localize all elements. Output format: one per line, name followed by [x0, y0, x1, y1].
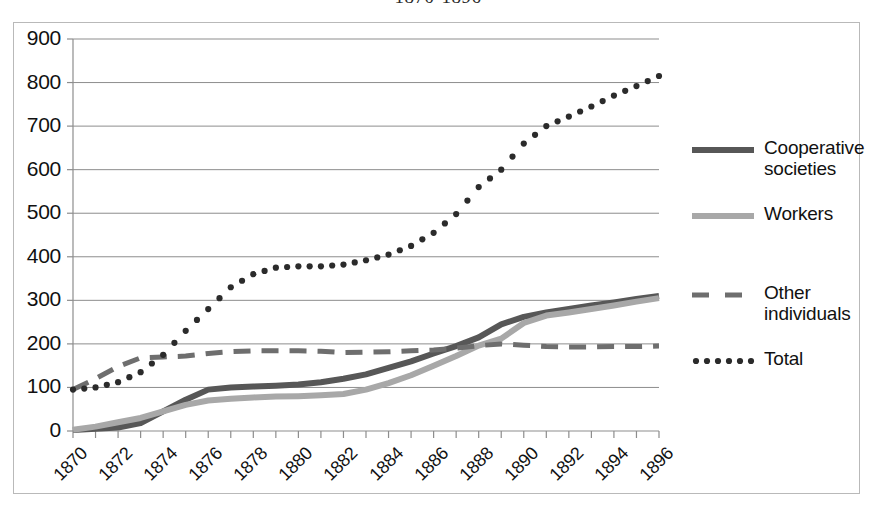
- data-dot: [521, 140, 527, 146]
- y-axis-tick-label: 800: [3, 70, 61, 94]
- data-dot: [487, 175, 493, 181]
- data-dot: [419, 236, 425, 242]
- plot-area: [14, 23, 859, 493]
- legend-swatch-3: [693, 358, 699, 364]
- data-dot: [138, 369, 144, 375]
- data-dot: [476, 184, 482, 190]
- y-axis-tick-label: 0: [3, 418, 61, 442]
- data-dot: [239, 278, 245, 284]
- data-dot: [385, 252, 391, 258]
- data-dot: [431, 230, 437, 236]
- data-dot: [588, 103, 594, 109]
- series-2: [73, 344, 659, 390]
- data-dot: [442, 220, 448, 226]
- data-dot: [600, 98, 606, 104]
- data-dot: [216, 295, 222, 301]
- legend-item-label[interactable]: Total: [764, 348, 876, 369]
- y-axis-tick-label: 600: [3, 157, 61, 181]
- data-dot: [250, 271, 256, 277]
- data-dot: [453, 211, 459, 217]
- y-axis-tick-label: 900: [3, 26, 61, 50]
- y-axis-tick-label: 700: [3, 113, 61, 137]
- data-dot: [92, 384, 98, 390]
- data-dot: [295, 263, 301, 269]
- data-dot: [363, 257, 369, 263]
- chart-frame: 0100200300400500600700800900 18701872187…: [13, 22, 860, 494]
- data-dot: [352, 259, 358, 265]
- data-dot: [261, 268, 267, 274]
- data-dot: [228, 284, 234, 290]
- data-dot: [464, 197, 470, 203]
- data-dot: [329, 262, 335, 268]
- chart-figure: 1870-1896 0100200300400500600700800900 1…: [0, 0, 876, 519]
- y-axis-tick-label: 200: [3, 331, 61, 355]
- data-dot: [171, 340, 177, 346]
- y-axis-tick-label: 500: [3, 200, 61, 224]
- data-dot: [70, 387, 76, 393]
- data-dot: [633, 83, 639, 89]
- legend-swatch-3: [726, 358, 732, 364]
- data-dot: [149, 360, 155, 366]
- data-dot: [554, 118, 560, 124]
- legend-swatch-3: [748, 358, 754, 364]
- legend-item-label[interactable]: Otherindividuals: [764, 282, 876, 325]
- data-dot: [115, 379, 121, 385]
- y-axis-tick-label: 100: [3, 374, 61, 398]
- data-dot: [577, 108, 583, 114]
- legend-swatches: [692, 150, 754, 364]
- data-dot: [284, 264, 290, 270]
- data-dot: [532, 132, 538, 138]
- chart-title: 1870-1896: [0, 0, 876, 12]
- data-dot: [622, 88, 628, 94]
- data-dot: [194, 317, 200, 323]
- data-dot: [160, 352, 166, 358]
- data-dot: [374, 254, 380, 260]
- y-tick-marks: [67, 39, 73, 431]
- x-tick-marks: [73, 431, 659, 438]
- y-axis-tick-label: 300: [3, 287, 61, 311]
- data-dot: [183, 328, 189, 334]
- data-dot: [645, 78, 651, 84]
- data-dot: [397, 247, 403, 253]
- data-dot: [104, 382, 110, 388]
- data-dot: [273, 265, 279, 271]
- legend-item-label[interactable]: Workers: [764, 203, 876, 224]
- data-dot: [566, 113, 572, 119]
- data-dot: [318, 263, 324, 269]
- data-dot: [543, 123, 549, 129]
- legend-swatch-3: [737, 358, 743, 364]
- data-dot: [498, 167, 504, 173]
- legend-swatch-3: [715, 358, 721, 364]
- data-dot: [509, 154, 515, 160]
- gridlines: [73, 39, 659, 387]
- data-dot: [126, 374, 132, 380]
- data-dot: [307, 263, 313, 269]
- data-dot: [81, 385, 87, 391]
- data-dot: [408, 243, 414, 249]
- y-axis-tick-label: 400: [3, 244, 61, 268]
- data-dot: [656, 73, 662, 79]
- data-dot: [205, 306, 211, 312]
- legend-item-label[interactable]: Cooperativesocieties: [764, 137, 876, 180]
- data-dot: [611, 93, 617, 99]
- legend-swatch-3: [704, 358, 710, 364]
- series-1: [73, 298, 659, 430]
- data-dot: [340, 262, 346, 268]
